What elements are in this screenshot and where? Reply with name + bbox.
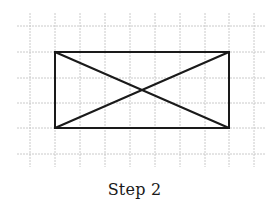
step-caption: Step 2: [0, 180, 269, 199]
grid-diagram: [0, 0, 269, 206]
